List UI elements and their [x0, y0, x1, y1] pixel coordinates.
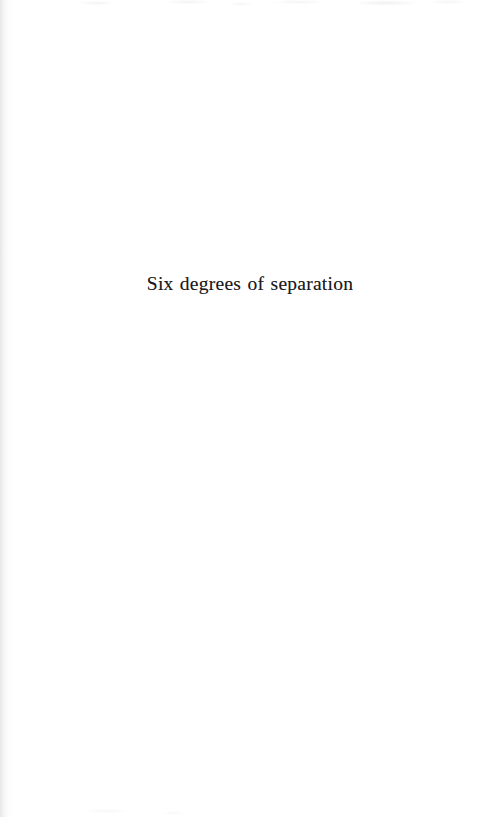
section-title: Six degrees of separation: [147, 272, 353, 296]
scanned-page: Six degrees of separation: [0, 0, 482, 817]
scan-noise-bottom: [0, 789, 482, 817]
scan-noise-top: [0, 0, 482, 16]
scan-edge-shadow-left: [0, 0, 14, 817]
page-text-block: Six degrees of separation: [0, 272, 482, 296]
